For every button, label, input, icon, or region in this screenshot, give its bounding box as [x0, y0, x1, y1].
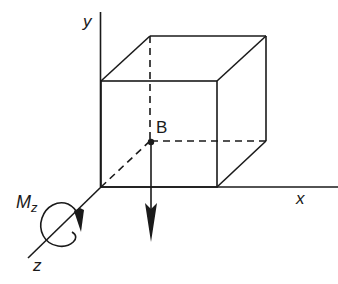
moment-label: Mz: [16, 192, 38, 215]
x-axis-label: x: [295, 189, 305, 208]
cube-moment-diagram: y x z B Mz: [0, 0, 338, 284]
moment-arrowhead: [74, 208, 84, 232]
cube-edge-top-right: [217, 36, 266, 81]
z-axis: [28, 187, 101, 258]
point-b-dot: [148, 139, 154, 145]
hidden-edge-diagonal: [101, 141, 150, 187]
cube-edge-bottom-right: [217, 141, 266, 187]
moment-arc: [41, 203, 78, 246]
cube-edge-top-left: [101, 36, 150, 81]
point-b-label: B: [156, 118, 167, 137]
y-axis-label: y: [82, 12, 93, 31]
z-axis-label: z: [32, 256, 42, 275]
